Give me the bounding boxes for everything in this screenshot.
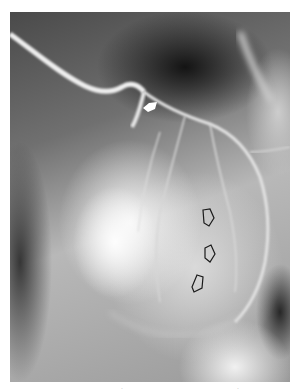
bottom-mark: . xyxy=(237,384,239,390)
vessel-overlay xyxy=(10,12,290,382)
angiogram-image xyxy=(10,12,290,382)
open-arrow-icon xyxy=(201,208,215,228)
open-arrow-icon xyxy=(203,244,217,264)
bottom-mark: . xyxy=(121,384,123,390)
open-arrow-icon xyxy=(191,274,205,294)
solid-arrow-icon xyxy=(143,102,157,112)
